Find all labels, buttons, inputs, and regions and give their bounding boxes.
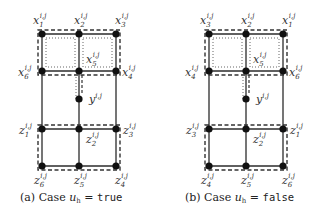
gadget-diagram: x1i,j x2i,j x3i,j x6i,j x4i,j x5i,j yi,j…: [0, 0, 321, 212]
label-z3: z3i,j: [122, 122, 137, 139]
label-x4: x4i,j: [185, 64, 199, 81]
label-x5: x5i,j: [253, 51, 267, 68]
label-z2: z2i,j: [252, 131, 267, 148]
caption-a: (a) Case uh = true: [20, 191, 122, 205]
label-x6: x6i,j: [18, 64, 32, 81]
label-x3: x3i,j: [200, 12, 214, 29]
label-z5: z5i,j: [240, 172, 255, 189]
label-x2: x2i,j: [74, 12, 88, 29]
label-x1: x1i,j: [282, 12, 296, 29]
caption-b: (b) Case uh = false: [185, 191, 294, 205]
label-y: yi,j: [255, 92, 270, 106]
dotted-square-left: [46, 38, 75, 67]
label-z6: z6i,j: [281, 172, 296, 189]
label-z5: z5i,j: [73, 172, 88, 189]
label-x6: x6i,j: [289, 64, 303, 81]
label-y: yi,j: [88, 92, 103, 106]
label-z1: z1i,j: [18, 122, 33, 139]
label-x4: x4i,j: [122, 64, 136, 81]
label-x3: x3i,j: [115, 12, 129, 29]
panel-a: x1i,j x2i,j x3i,j x6i,j x4i,j x5i,j yi,j…: [18, 12, 137, 205]
label-z4: z4i,j: [200, 172, 215, 189]
panel-b: x3i,j x2i,j x1i,j x4i,j x6i,j x5i,j yi,j…: [185, 12, 304, 205]
label-z2: z2i,j: [85, 131, 100, 148]
label-z1: z1i,j: [289, 122, 304, 139]
label-z3: z3i,j: [185, 122, 200, 139]
label-z6: z6i,j: [33, 172, 48, 189]
label-x2: x2i,j: [241, 12, 255, 29]
label-x5: x5i,j: [86, 51, 100, 68]
label-x1: x1i,j: [33, 12, 47, 29]
dotted-square-left: [213, 38, 242, 67]
label-z4: z4i,j: [114, 172, 129, 189]
